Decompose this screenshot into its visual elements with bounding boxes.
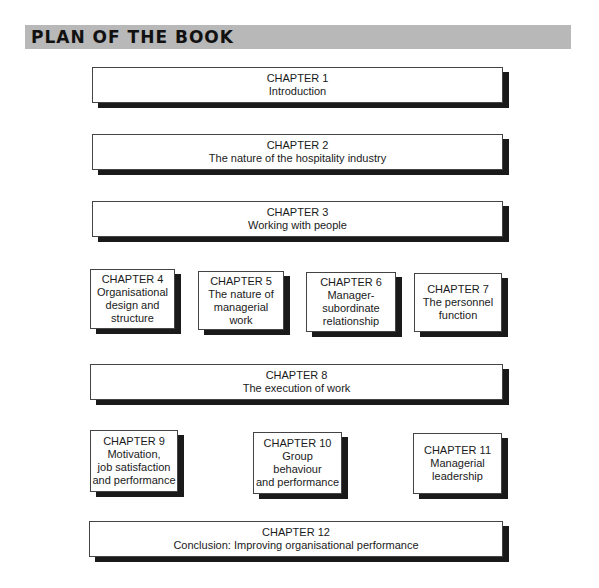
chapter-8-box: CHAPTER 8 The execution of work (90, 364, 503, 400)
chapter-title: Introduction (269, 85, 326, 98)
chapter-title: Conclusion: Improving organisational per… (173, 539, 418, 552)
chapter-heading: CHAPTER 7 (427, 283, 489, 296)
chapter-title-line: Managerial (430, 457, 484, 470)
chapter-title-line: Organisational (97, 286, 168, 299)
chapter-title-line: job satisfaction (98, 461, 171, 474)
chapter-heading: CHAPTER 2 (267, 139, 329, 152)
chapter-title-line: The nature of (208, 288, 273, 301)
chapter-title-line: managerial (214, 301, 268, 314)
chapter-4-box: CHAPTER 4 Organisational design and stru… (90, 269, 175, 329)
chapter-heading: CHAPTER 12 (262, 526, 330, 539)
chapter-9-box: CHAPTER 9 Motivation, job satisfaction a… (90, 430, 178, 492)
chapter-title-line: relationship (323, 315, 379, 328)
chapter-title-line: leadership (432, 470, 483, 483)
chapter-heading: CHAPTER 5 (210, 275, 272, 288)
chapter-10-box: CHAPTER 10 Group behaviour and performan… (253, 432, 342, 494)
chapter-heading: CHAPTER 8 (266, 369, 328, 382)
chapter-title-line: and performance (256, 476, 339, 489)
chapter-heading: CHAPTER 9 (103, 435, 165, 448)
chapter-title-line: behaviour (273, 463, 321, 476)
chapter-title-line: design and (106, 299, 160, 312)
chapter-12-box: CHAPTER 12 Conclusion: Improving organis… (89, 521, 503, 557)
chapter-title-line: subordinate (322, 302, 380, 315)
chapter-title-line: Manager- (327, 289, 374, 302)
chapter-title-line: Group (282, 450, 313, 463)
chapter-title-line: structure (111, 312, 154, 325)
chapter-title-line: Motivation, (107, 448, 160, 461)
chapter-heading: CHAPTER 10 (264, 437, 332, 450)
chapter-heading: CHAPTER 6 (320, 276, 382, 289)
chapter-title-line: function (439, 309, 478, 322)
chapter-1-box: CHAPTER 1 Introduction (92, 67, 503, 103)
chapter-heading: CHAPTER 3 (267, 206, 329, 219)
chapter-heading: CHAPTER 4 (102, 273, 164, 286)
chapter-heading: CHAPTER 1 (267, 72, 329, 85)
chapter-title: Working with people (248, 219, 347, 232)
chapter-3-box: CHAPTER 3 Working with people (92, 201, 503, 237)
chapter-5-box: CHAPTER 5 The nature of managerial work (198, 271, 284, 330)
chapter-2-box: CHAPTER 2 The nature of the hospitality … (92, 134, 503, 170)
chapter-6-box: CHAPTER 6 Manager- subordinate relations… (306, 272, 396, 332)
chapter-11-box: CHAPTER 11 Managerial leadership (413, 433, 502, 494)
chapter-heading: CHAPTER 11 (424, 444, 491, 457)
chapter-7-box: CHAPTER 7 The personnel function (414, 273, 502, 332)
chapter-title: The execution of work (243, 382, 351, 395)
chapter-title-line: and performance (92, 474, 175, 487)
chapter-title: The nature of the hospitality industry (209, 152, 386, 165)
section-header: PLAN OF THE BOOK (25, 25, 571, 49)
chapter-title-line: work (229, 314, 252, 327)
page-title: PLAN OF THE BOOK (31, 27, 234, 47)
chapter-title-line: The personnel (423, 296, 493, 309)
